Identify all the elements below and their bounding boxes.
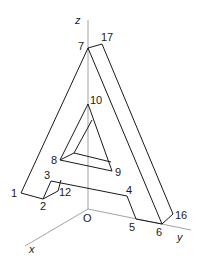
vertex-label-4: 4: [126, 184, 132, 196]
inner-triangle-bottom-back: [74, 153, 111, 162]
vertex-label-16: 16: [175, 209, 187, 221]
axis-labels: z x y O: [28, 14, 184, 255]
vertex-label-3: 3: [44, 169, 50, 181]
x-axis-label: x: [28, 243, 35, 255]
origin-label: O: [83, 212, 92, 224]
front-inner-triangle: [60, 104, 112, 171]
y-axis-label: y: [176, 231, 184, 243]
vertex-label-2: 2: [40, 200, 46, 212]
vertex-label-10: 10: [90, 94, 102, 106]
edge-6-16: [162, 214, 173, 224]
x-axis: [25, 209, 88, 246]
vertex-label-1: 1: [11, 187, 17, 199]
z-axis-label: z: [74, 14, 81, 26]
coordinate-axes: [25, 20, 191, 246]
vertex-label-17: 17: [101, 31, 113, 43]
edge-7-17: [88, 44, 102, 48]
letter-a-3d-diagram: 7 17 10 8 9 1 2 3 12 4 5 6 16 z x y O: [0, 0, 200, 263]
vertex-label-12: 12: [59, 186, 71, 198]
vertex-label-8: 8: [51, 154, 57, 166]
vertex-label-7: 7: [78, 40, 84, 52]
vertex-label-5: 5: [129, 221, 135, 233]
edge-17-16: [102, 44, 173, 214]
diagram-canvas: 7 17 10 8 9 1 2 3 12 4 5 6 16 z x y O: [0, 0, 200, 263]
vertex-label-6: 6: [156, 226, 162, 238]
vertex-label-9: 9: [115, 166, 121, 178]
